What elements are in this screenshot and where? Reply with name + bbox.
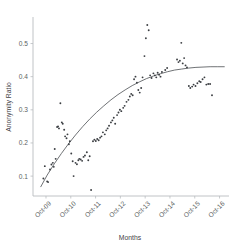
- data-point: [203, 76, 205, 78]
- data-point: [176, 58, 178, 60]
- y-tick-label: 0.4: [19, 73, 28, 80]
- data-point: [164, 69, 166, 71]
- data-point: [182, 62, 184, 64]
- data-point: [67, 133, 69, 135]
- data-point: [59, 102, 61, 104]
- data-point: [195, 85, 197, 87]
- data-point: [95, 140, 97, 142]
- data-point: [202, 78, 204, 80]
- data-point: [73, 175, 75, 177]
- data-point: [158, 74, 160, 76]
- data-point: [139, 92, 141, 94]
- data-point: [152, 72, 154, 74]
- data-point: [105, 129, 107, 131]
- data-point: [211, 94, 213, 96]
- data-point: [110, 121, 112, 123]
- data-point: [81, 160, 83, 162]
- data-point: [183, 57, 185, 59]
- data-point: [66, 137, 68, 139]
- data-point: [160, 76, 162, 78]
- data-point: [133, 78, 135, 80]
- x-axis-ticks: Oct-09Oct-10Oct-11Oct-12Oct-13Oct-14Oct-…: [33, 196, 226, 219]
- data-point: [80, 159, 82, 161]
- data-point: [124, 105, 126, 107]
- data-point: [148, 29, 150, 31]
- data-point: [42, 177, 44, 179]
- data-point: [70, 153, 72, 155]
- data-point: [63, 129, 65, 131]
- data-point: [86, 151, 88, 153]
- data-point: [205, 84, 207, 86]
- y-axis-ticks: 0.10.20.30.40.5: [19, 40, 33, 180]
- data-point: [191, 86, 193, 88]
- data-point: [180, 42, 182, 44]
- data-point: [155, 76, 157, 78]
- data-point: [145, 37, 147, 39]
- data-point: [92, 140, 94, 142]
- data-point: [179, 60, 181, 62]
- data-point: [55, 158, 57, 160]
- x-axis-title: Months: [119, 234, 142, 241]
- data-point: [140, 87, 142, 89]
- data-point: [87, 159, 89, 161]
- data-point: [135, 76, 137, 78]
- data-point: [127, 99, 129, 101]
- data-point: [58, 127, 60, 129]
- anonymity-ratio-scatter-chart: 0.10.20.30.40.5 Oct-09Oct-10Oct-11Oct-12…: [0, 0, 233, 245]
- data-point: [102, 131, 104, 133]
- data-point: [89, 155, 91, 157]
- data-point: [49, 169, 51, 171]
- y-tick-label: 0.3: [19, 106, 28, 113]
- data-point: [44, 165, 46, 167]
- data-points: [42, 24, 213, 191]
- x-tick-label: Oct-10: [58, 200, 77, 219]
- data-point: [122, 107, 124, 109]
- y-tick-label: 0.2: [19, 139, 28, 146]
- data-point: [52, 162, 54, 164]
- data-point: [154, 74, 156, 76]
- data-point: [161, 71, 163, 73]
- data-point: [101, 135, 103, 137]
- data-point: [137, 89, 139, 91]
- data-point: [151, 77, 153, 79]
- data-point: [76, 163, 78, 165]
- x-tick-label: Oct-16: [207, 200, 226, 219]
- data-point: [119, 109, 121, 111]
- data-point: [99, 137, 101, 139]
- x-tick-label: Oct-11: [83, 200, 102, 219]
- data-point: [72, 160, 74, 162]
- data-point: [75, 162, 77, 164]
- data-point: [126, 101, 128, 103]
- data-point: [114, 123, 116, 125]
- x-tick-label: Oct-09: [33, 200, 52, 219]
- data-point: [207, 83, 209, 85]
- data-point: [144, 55, 146, 57]
- data-point: [185, 64, 187, 66]
- plot-area: 0.10.20.30.40.5 Oct-09Oct-10Oct-11Oct-12…: [0, 0, 233, 245]
- data-point: [53, 166, 55, 168]
- data-point: [130, 93, 132, 95]
- data-point: [200, 81, 202, 83]
- y-tick-label: 0.1: [19, 173, 28, 180]
- x-tick-label: Oct-14: [157, 200, 176, 219]
- y-axis-title: Anonymity Ratio: [5, 82, 13, 132]
- data-point: [62, 123, 64, 125]
- data-point: [189, 87, 191, 89]
- data-point: [104, 133, 106, 135]
- data-point: [69, 140, 71, 142]
- data-point: [113, 117, 115, 119]
- data-point: [186, 66, 188, 68]
- y-tick-label: 0.5: [19, 40, 28, 47]
- data-point: [68, 143, 70, 145]
- data-point: [64, 135, 66, 137]
- data-point: [149, 74, 151, 76]
- data-point: [90, 189, 92, 191]
- data-point: [93, 139, 95, 141]
- x-tick-label: Oct-13: [132, 200, 151, 219]
- data-point: [111, 119, 113, 121]
- data-point: [188, 85, 190, 87]
- data-point: [146, 24, 148, 26]
- data-point: [209, 83, 211, 85]
- data-point: [96, 138, 98, 140]
- data-point: [166, 67, 168, 69]
